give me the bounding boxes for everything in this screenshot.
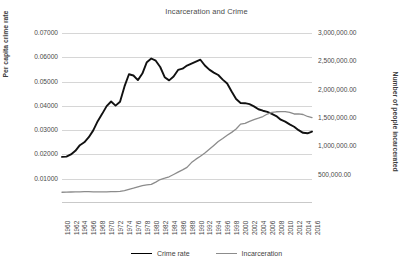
x-axis-tick-label: 1974 <box>127 221 133 235</box>
x-axis-tick-label: 1988 <box>190 221 196 235</box>
y-axis-left-tick-label: 0.03000 <box>34 127 58 134</box>
chart-title: Incarceration and Crime <box>0 7 413 16</box>
chart-legend: Crime rateIncarceration <box>0 246 413 260</box>
y-axis-right-tick-label: 2,500,000.00 <box>318 58 357 65</box>
y-axis-left-tick-label: 0.04000 <box>34 103 58 110</box>
y-axis-left-tick-label: 0.01000 <box>34 176 58 183</box>
series-line-incarceration <box>62 112 312 193</box>
x-axis-tick-label: 1976 <box>136 221 142 235</box>
x-axis-tick-label: 1986 <box>181 221 187 235</box>
x-axis-tick-label: 2012 <box>297 221 303 235</box>
y-axis-right-tick-label: 1,000,000.00 <box>318 143 357 150</box>
x-axis-tick-label: 2016 <box>315 221 321 235</box>
x-axis-tick-label: 1984 <box>172 221 178 235</box>
x-axis-tick-label: 1982 <box>163 221 169 235</box>
legend-swatch-icon <box>216 253 237 254</box>
x-axis-tick-label: 1966 <box>91 221 97 235</box>
x-axis-tick-label: 1962 <box>74 221 80 235</box>
x-axis-tick-label: 2000 <box>243 221 249 235</box>
legend-item[interactable]: Crime rate <box>131 250 190 257</box>
series-lines <box>62 33 312 203</box>
x-axis-tick-label: 1972 <box>118 221 124 235</box>
y-axis-right-label: Number of people incarcerated <box>392 72 399 84</box>
legend-label: Incarceration <box>242 250 282 257</box>
y-axis-right-tick-label: 2,000,000.00 <box>318 87 357 94</box>
series-line-crime-rate <box>62 59 312 157</box>
legend-swatch-icon <box>131 253 152 254</box>
x-axis-tick-label: 2014 <box>306 221 312 235</box>
x-axis-ticks: 1960196219641966196819701972197419761978… <box>62 205 312 237</box>
y-axis-left-tick-label: 0.07000 <box>34 30 58 37</box>
x-axis-tick-label: 1994 <box>216 221 222 235</box>
chart-container: Incarceration and Crime Per capita crime… <box>0 0 413 264</box>
legend-label: Crime rate <box>157 250 190 257</box>
x-axis-tick-label: 1980 <box>154 221 160 235</box>
y-axis-left-tick-label: 0.05000 <box>34 79 58 86</box>
x-axis-tick-label: 2010 <box>288 221 294 235</box>
x-axis-tick-label: 1968 <box>100 221 106 235</box>
x-axis-tick-label: 1998 <box>234 221 240 235</box>
x-axis-tick-label: 2004 <box>261 221 267 235</box>
y-axis-left-tick-label: 0.06000 <box>34 54 58 61</box>
x-axis-tick-label: 1990 <box>199 221 205 235</box>
x-axis-tick-label: 1996 <box>225 221 231 235</box>
y-axis-right-tick-label: 1,500,000.00 <box>318 115 357 122</box>
plot-area <box>62 33 312 203</box>
x-axis-tick-label: 1970 <box>109 221 115 235</box>
y-axis-right-tick-label: 500,000.00 <box>318 172 351 179</box>
x-axis-tick-label: 1992 <box>207 221 213 235</box>
legend-item[interactable]: Incarceration <box>216 250 282 257</box>
x-axis-tick-label: 2006 <box>270 221 276 235</box>
x-axis-tick-label: 2002 <box>252 221 258 235</box>
y-axis-left-tick-label: 0.02000 <box>34 151 58 158</box>
x-axis-tick-label: 2008 <box>279 221 285 235</box>
x-axis-tick-label: 1978 <box>145 221 151 235</box>
x-axis-tick-label: 1964 <box>82 221 88 235</box>
y-axis-right-tick-label: 3,000,000.00 <box>318 30 357 37</box>
y-axis-left-label: Per capita crime rate <box>2 66 9 78</box>
x-axis-tick-label: 1960 <box>65 221 71 235</box>
